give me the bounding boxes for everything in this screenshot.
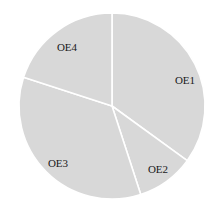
label-oe4: OE4 (57, 41, 78, 53)
label-oe2: OE2 (148, 163, 168, 175)
label-oe1: OE1 (175, 74, 195, 86)
pie-chart: OE1 OE2 OE3 OE4 (0, 0, 219, 210)
label-oe3: OE3 (48, 157, 69, 169)
pie-slices (19, 13, 205, 199)
